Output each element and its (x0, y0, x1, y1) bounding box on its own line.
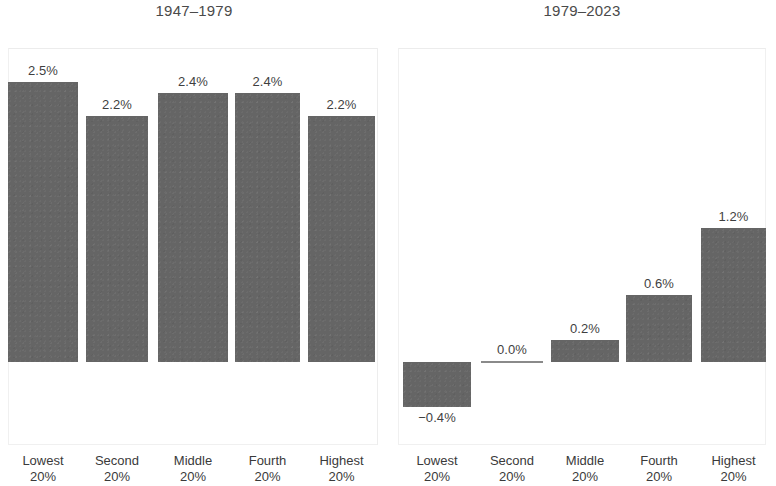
bar-value-label-second: 2.2% (71, 97, 163, 112)
panel-left: 1947–1979 2.5%Lowest20%2.2%Second20%2.4%… (0, 0, 388, 486)
bar-middle (551, 340, 619, 362)
x-tick-line2: 20% (293, 469, 390, 485)
figure-two-panel-bar-chart: 1947–1979 2.5%Lowest20%2.2%Second20%2.4%… (0, 0, 776, 486)
panel-left-plot-area: 2.5%Lowest20%2.2%Second20%2.4%Middle20%2… (8, 48, 378, 445)
bar-value-label-fourth: 2.4% (220, 74, 315, 89)
x-tick-line1: Highest (686, 453, 776, 469)
bar-highest (701, 228, 766, 362)
panel-divider (377, 48, 378, 445)
bar-value-label-highest: 1.2% (686, 209, 776, 224)
bar-lowest (8, 82, 78, 362)
x-tick-line2: 20% (686, 469, 776, 485)
bar-value-label-lowest: 2.5% (0, 63, 93, 78)
x-tick-line1: Highest (293, 453, 390, 469)
bar-middle (158, 93, 228, 362)
bar-value-label-lowest: −0.4% (388, 410, 486, 425)
panel-right-title: 1979–2023 (388, 2, 776, 19)
bar-fourth (235, 93, 300, 362)
panel-left-title: 1947–1979 (0, 2, 388, 19)
bar-second (481, 361, 543, 363)
bar-value-label-fourth: 0.6% (611, 276, 707, 291)
panel-right-plot-area: −0.4%Lowest20%0.0%Second20%0.2%Middle20%… (398, 48, 766, 445)
bar-second (86, 116, 148, 362)
bar-value-label-highest: 2.2% (293, 97, 390, 112)
bar-fourth (626, 295, 692, 362)
bar-value-label-second: 0.0% (466, 342, 558, 357)
bar-value-label-middle: 0.2% (536, 321, 634, 336)
bar-lowest (403, 362, 471, 407)
x-tick-label-highest: Highest20% (293, 453, 390, 485)
panel-right: 1979–2023 −0.4%Lowest20%0.0%Second20%0.2… (388, 0, 776, 486)
bar-highest (308, 116, 375, 362)
x-tick-label-highest: Highest20% (686, 453, 776, 485)
